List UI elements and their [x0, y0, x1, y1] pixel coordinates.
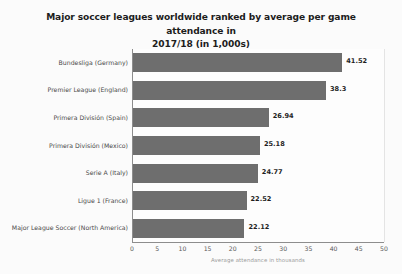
category-label: Primera División (Mexico) [2, 142, 128, 149]
category-label: Serie A (Italy) [2, 169, 128, 176]
x-tick-label: 5 [147, 245, 167, 252]
bar-value-label: 22.12 [248, 223, 269, 231]
bar-value-label: 41.52 [346, 57, 367, 65]
chart-title: Major soccer leagues worldwide ranked by… [18, 11, 384, 52]
bar-value-label: 26.94 [273, 112, 294, 120]
category-label: Ligue 1 (France) [2, 197, 128, 204]
x-tick-label: 40 [324, 245, 344, 252]
bar[interactable] [133, 136, 260, 155]
bar-row[interactable]: 26.94 [133, 108, 385, 127]
bar-chart-figure: Major soccer leagues worldwide ranked by… [0, 0, 402, 274]
x-axis-title: Average attendance in thousands [132, 257, 384, 263]
category-label: Premier League (England) [2, 86, 128, 93]
x-tick-label: 25 [248, 245, 268, 252]
category-axis: Bundesliga (Germany)Premier League (Engl… [0, 49, 128, 242]
bar[interactable] [133, 191, 247, 210]
x-axis-line [132, 242, 384, 243]
x-tick-label: 45 [349, 245, 369, 252]
bar-row[interactable]: 38.3 [133, 81, 385, 100]
bar[interactable] [133, 81, 326, 100]
chart-title-line-1: Major soccer leagues worldwide ranked by… [46, 12, 356, 36]
x-tick-label: 35 [298, 245, 318, 252]
x-tick-label: 10 [172, 245, 192, 252]
category-label: Primera División (Spain) [2, 114, 128, 121]
bar[interactable] [133, 108, 269, 127]
x-tick-label: 30 [273, 245, 293, 252]
bar-row[interactable]: 22.12 [133, 219, 385, 238]
bar-value-label: 24.77 [262, 168, 283, 176]
x-tick-label: 15 [198, 245, 218, 252]
chart-title-line-2: 2017/18 (in 1,000s) [152, 39, 250, 49]
bar[interactable] [133, 219, 244, 238]
bar-row[interactable]: 41.52 [133, 53, 385, 72]
x-tick-label: 20 [223, 245, 243, 252]
bar-row[interactable]: 24.77 [133, 164, 385, 183]
bar-row[interactable]: 22.52 [133, 191, 385, 210]
bar[interactable] [133, 164, 258, 183]
bar-value-label: 22.52 [251, 195, 272, 203]
category-label: Bundesliga (Germany) [2, 59, 128, 66]
x-tick-label: 50 [374, 245, 394, 252]
x-tick-label: 0 [122, 245, 142, 252]
bar-value-label: 38.3 [330, 85, 346, 93]
bar-value-label: 25.18 [264, 140, 285, 148]
bar-row[interactable]: 25.18 [133, 136, 385, 155]
category-label: Major League Soccer (North America) [2, 224, 128, 231]
bar[interactable] [133, 53, 342, 72]
